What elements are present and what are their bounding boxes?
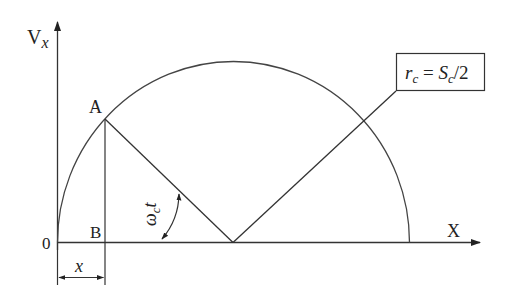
angle-label: ωct	[140, 202, 163, 227]
radius-callout-leader	[233, 91, 396, 243]
point-a-label: A	[89, 97, 102, 117]
angle-arc-arrow	[162, 194, 179, 239]
semicircle-motion-diagram: Vx X 0 A B x ωct rc = Sc/2	[0, 0, 509, 292]
y-axis-label: Vx	[27, 26, 49, 51]
dimension-x-label: x	[74, 256, 83, 276]
origin-label: 0	[42, 234, 51, 253]
semicircle-arc	[58, 62, 410, 243]
point-b-label: B	[90, 223, 101, 242]
radius-to-a	[105, 119, 233, 243]
x-axis-label: X	[447, 221, 460, 241]
